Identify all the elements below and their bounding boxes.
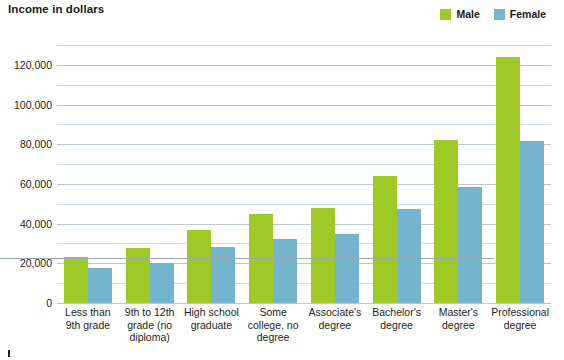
y-tick-label: 120,000 — [14, 59, 52, 71]
x-axis-label-line: 9th to 12th — [115, 306, 185, 319]
bar-male — [311, 208, 335, 303]
bar-group — [249, 45, 297, 303]
bar-group — [434, 45, 482, 303]
x-axis-label: Bachelor'sdegree — [362, 306, 432, 331]
y-tick-label: 60,000 — [20, 178, 52, 190]
bar-group — [373, 45, 421, 303]
bar-group — [187, 45, 235, 303]
bar-male — [373, 176, 397, 303]
y-tick-label: 40,000 — [20, 218, 52, 230]
x-axis-line — [0, 258, 494, 259]
x-axis-label: Master'sdegree — [424, 306, 494, 331]
x-axis-label-line: Bachelor's — [362, 306, 432, 319]
bar-female — [458, 187, 482, 303]
y-tick-label: 100,000 — [14, 99, 52, 111]
chart-legend: MaleFemale — [440, 8, 546, 20]
x-axis-label: 9th to 12thgrade (nodiploma) — [115, 306, 185, 344]
legend-item-female: Female — [494, 8, 546, 20]
x-axis-label-line: degree — [238, 331, 308, 344]
x-axis-label-line: 9th grade — [53, 319, 123, 332]
legend-swatch-female — [494, 9, 505, 20]
x-axis-label: Less than9th grade — [53, 306, 123, 331]
bar-female — [211, 247, 235, 303]
bar-group — [126, 45, 174, 303]
legend-item-male: Male — [440, 8, 479, 20]
x-axis-label-line: Associate's — [300, 306, 370, 319]
x-axis-label-line: High school — [177, 306, 247, 319]
legend-label: Female — [510, 8, 546, 20]
y-tick-label: 80,000 — [20, 138, 52, 150]
x-axis-label-line: college, no — [238, 319, 308, 332]
legend-label: Male — [456, 8, 479, 20]
plot-area — [57, 45, 551, 303]
legend-swatch-male — [440, 9, 451, 20]
bar-female — [520, 141, 544, 303]
bar-female — [88, 268, 112, 303]
x-axis-label-line: degree — [424, 319, 494, 332]
x-axis-label-line: degree — [300, 319, 370, 332]
x-axis-label: High schoolgraduate — [177, 306, 247, 331]
x-axis-label-line: graduate — [177, 319, 247, 332]
x-axis-label-line: Professional — [485, 306, 555, 319]
bars-layer — [57, 45, 551, 303]
bar-group — [64, 45, 112, 303]
x-axis: Less than9th grade9th to 12thgrade (nodi… — [57, 306, 551, 356]
bar-male — [496, 57, 520, 303]
bar-male — [187, 230, 211, 303]
bar-female — [273, 239, 297, 304]
bar-male — [126, 248, 150, 303]
bar-female — [335, 234, 359, 303]
x-axis-label-line: Less than — [53, 306, 123, 319]
bar-male — [64, 257, 88, 303]
x-axis-label: Professionaldegree — [485, 306, 555, 331]
x-axis-label: Associate'sdegree — [300, 306, 370, 331]
x-axis-label-line: degree — [362, 319, 432, 332]
y-tick-label: 0 — [46, 297, 52, 309]
income-by-education-bar-chart: Income in dollars MaleFemale 020,00040,0… — [0, 0, 564, 360]
x-axis-label-line: grade (no — [115, 319, 185, 332]
x-axis-label-line: degree — [485, 319, 555, 332]
chart-title: Income in dollars — [8, 3, 104, 15]
corner-tick-mark — [8, 350, 10, 357]
y-axis: 020,00040,00060,00080,000100,000120,000 — [0, 45, 52, 303]
bar-female — [397, 209, 421, 303]
x-axis-label-line: Some — [238, 306, 308, 319]
x-axis-label: Somecollege, nodegree — [238, 306, 308, 344]
x-axis-label-line: diploma) — [115, 331, 185, 344]
gridline — [57, 303, 551, 304]
bar-group — [311, 45, 359, 303]
y-tick-label: 20,000 — [20, 257, 52, 269]
bar-female — [150, 263, 174, 303]
bar-group — [496, 45, 544, 303]
x-axis-label-line: Master's — [424, 306, 494, 319]
bar-male — [434, 140, 458, 303]
